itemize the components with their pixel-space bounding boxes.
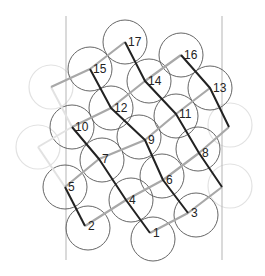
- dark-path: [125, 42, 222, 187]
- lattice-diagram: 1234567891011121314151617: [0, 0, 265, 276]
- node-label-5: 5: [68, 180, 75, 194]
- grey-path: [65, 88, 210, 187]
- grey-path: [85, 127, 229, 226]
- ghost-path: [38, 147, 65, 187]
- node-label-17: 17: [128, 35, 142, 49]
- dark-path: [90, 69, 188, 213]
- node-label-16: 16: [184, 48, 198, 62]
- grey-path: [51, 42, 125, 87]
- node-label-11: 11: [179, 107, 192, 121]
- node-label-14: 14: [148, 74, 162, 88]
- circles: [43, 20, 232, 261]
- node-label-2: 2: [88, 219, 95, 233]
- ghost-path: [51, 87, 72, 127]
- node-label-3: 3: [191, 206, 198, 220]
- node-label-9: 9: [148, 133, 155, 147]
- node-label-7: 7: [102, 152, 109, 166]
- node-label-8: 8: [202, 146, 209, 160]
- ghost-circle: [208, 164, 252, 208]
- diagram-canvas: 1234567891011121314151617: [0, 0, 265, 276]
- node-label-15: 15: [93, 62, 107, 76]
- node-label-4: 4: [129, 193, 136, 207]
- node-label-10: 10: [75, 120, 89, 134]
- node-label-12: 12: [114, 101, 128, 115]
- node-label-13: 13: [213, 81, 227, 95]
- ghost-path: [38, 127, 72, 147]
- node-label-6: 6: [166, 173, 173, 187]
- node-label-1: 1: [153, 226, 160, 240]
